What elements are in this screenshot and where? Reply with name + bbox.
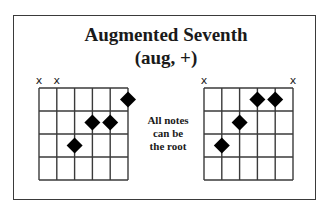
muted-string-icon: x — [54, 74, 61, 87]
muted-string-icon: x — [36, 74, 43, 87]
muted-string-icon: x — [290, 74, 297, 87]
finger-position-diamond-icon — [67, 138, 83, 154]
finger-position-diamond-icon — [84, 115, 100, 131]
finger-position-diamond-icon — [214, 138, 230, 154]
muted-string-icon: x — [201, 74, 208, 87]
finger-position-diamond-icon — [232, 115, 248, 131]
finger-position-diamond-icon — [267, 92, 283, 108]
finger-position-diamond-icon — [249, 92, 265, 108]
chord-diagrams: xxxx — [0, 0, 332, 212]
finger-position-diamond-icon — [102, 115, 118, 131]
finger-position-diamond-icon — [120, 92, 136, 108]
